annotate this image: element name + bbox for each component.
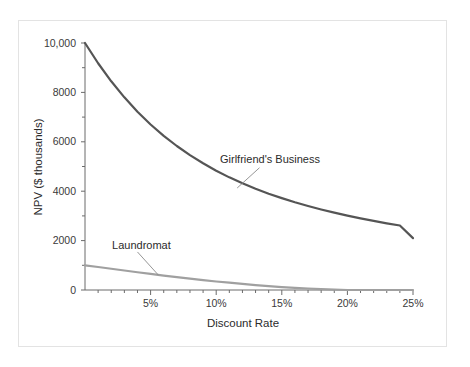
series-leader-lines [137,168,259,275]
y-tick-label: 8000 [53,86,77,98]
series-line [85,43,413,238]
y-axis-ticks [81,43,85,290]
x-axis-tick-labels: 5%10%15%20%25% [143,297,424,309]
series-lines [85,43,413,290]
series-annotations: Girlfriend's BusinessLaundromat [112,153,320,251]
x-tick-label: 20% [337,297,358,309]
x-tick-label: 10% [206,297,227,309]
y-tick-label: 0 [70,284,76,296]
y-axis-title: NPV ($ thousands) [32,118,44,215]
npv-vs-discount-rate-chart: 0200040006000800010,000 5%10%15%20%25% G… [0,0,470,367]
x-tick-label: 15% [271,297,292,309]
x-tick-label: 25% [402,297,423,309]
x-tick-label: 5% [143,297,158,309]
x-axis-title: Discount Rate [207,317,279,329]
y-tick-label: 6000 [53,135,77,147]
y-axis-tick-labels: 0200040006000800010,000 [44,37,76,296]
series-label: Girlfriend's Business [220,153,320,165]
y-tick-label: 10,000 [44,37,76,49]
y-tick-label: 4000 [53,185,77,197]
y-tick-label: 2000 [53,234,77,246]
chart-figure: 0200040006000800010,000 5%10%15%20%25% G… [0,0,470,367]
series-line [85,265,413,290]
series-label: Laundromat [112,239,171,251]
